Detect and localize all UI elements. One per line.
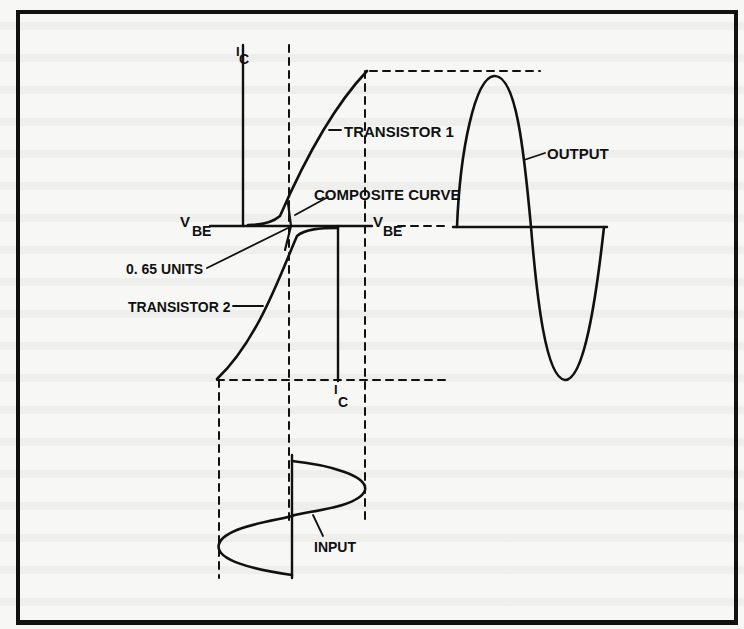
input-leader: [313, 515, 323, 536]
composite-curve-label: COMPOSITE CURVE: [314, 186, 460, 203]
vbe-right-label: V: [373, 213, 383, 230]
transfer-characteristic-diagram: I C TRANSISTOR 1 COMPOSITE CURVE V BE V …: [0, 0, 744, 629]
transistor-1-label: TRANSISTOR 1: [344, 123, 454, 140]
threshold-leader: [207, 227, 290, 268]
output-leader: [524, 153, 545, 160]
transistor-2-curve: [217, 228, 338, 379]
threshold-label: 0. 65 UNITS: [126, 261, 203, 277]
vbe-right-subscript: BE: [383, 223, 402, 239]
ic-bottom-subscript: C: [338, 394, 348, 410]
ic-top-subscript: C: [239, 51, 249, 67]
vbe-left-subscript: BE: [192, 223, 211, 239]
input-label: INPUT: [314, 539, 356, 555]
output-label: OUTPUT: [547, 145, 609, 162]
vbe-left-label: V: [180, 213, 190, 230]
transistor-2-label: TRANSISTOR 2: [128, 299, 231, 315]
